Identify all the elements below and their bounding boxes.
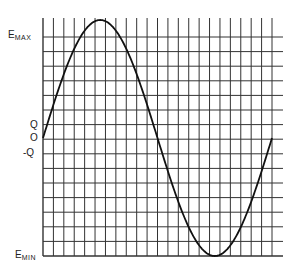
label-q: Q [30,120,38,130]
label-zero: O [30,133,38,143]
label-emin-sub: MIN [22,254,36,261]
label-emax-sub: MAX [15,34,32,41]
label-emax-main: E [8,29,15,40]
label-emin: EMIN [15,250,36,260]
label-emax: EMAX [8,30,31,40]
label-neg-q: -Q [23,148,34,158]
sine-wave-diagram [0,0,295,274]
horizontal-grid-lines [43,37,283,256]
label-emin-main: E [15,249,22,260]
